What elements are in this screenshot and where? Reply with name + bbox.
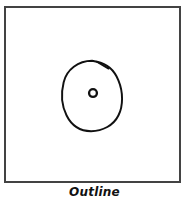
inner-dot-outline-icon [89, 89, 97, 97]
figure-frame [4, 6, 181, 183]
figure-root: Outline [0, 0, 189, 200]
figure-caption: Outline [0, 185, 189, 199]
outline-drawing [6, 8, 179, 181]
